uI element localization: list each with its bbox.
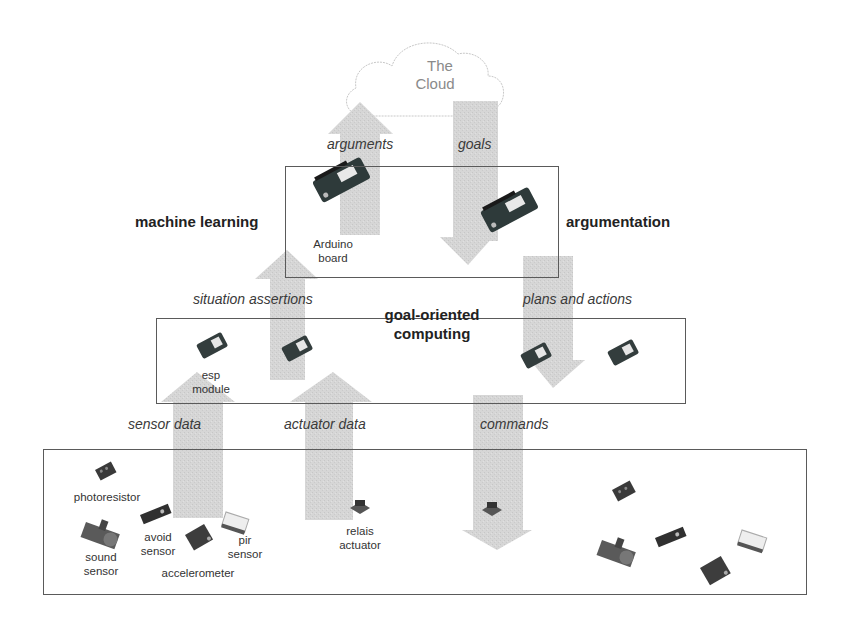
flow-label-goals: goals <box>458 136 491 152</box>
device-label-relais-line1: relais <box>330 524 390 538</box>
flow-label-situation-assertions: situation assertions <box>193 291 313 307</box>
flow-label-plans-and-actions: plans and actions <box>523 291 632 307</box>
device-label-arduino: Arduino board <box>303 237 363 265</box>
flow-label-arguments: arguments <box>327 136 393 152</box>
device-label-relais-line2: actuator <box>330 538 390 552</box>
device-label-accelerometer: accelerometer <box>158 566 238 580</box>
flow-label-commands: commands <box>480 416 548 432</box>
cloud-label: The Cloud <box>410 57 460 93</box>
device-label-avoid-line1: avoid <box>133 530 183 544</box>
layer-title-machine-learning: machine learning <box>135 212 258 231</box>
device-label-pir-line1: pir <box>220 533 270 547</box>
device-label-sound-line1: sound <box>76 550 126 564</box>
layer-title-goal-oriented-computing: goal-oriented computing <box>367 305 497 343</box>
device-label-arduino-line2: board <box>303 251 363 265</box>
device-label-sound-sensor: sound sensor <box>76 550 126 578</box>
device-label-sound-line2: sensor <box>76 564 126 578</box>
device-label-photoresistor: photoresistor <box>67 490 147 504</box>
layer-title-goal-oriented-line1: goal-oriented <box>367 305 497 324</box>
device-label-relais-actuator: relais actuator <box>330 524 390 552</box>
cloud-label-line2: Cloud <box>410 75 460 93</box>
layer-title-argumentation: argumentation <box>566 212 670 231</box>
flow-label-actuator-data: actuator data <box>284 416 366 432</box>
layer-title-goal-oriented-line2: computing <box>367 324 497 343</box>
device-label-pir-line2: sensor <box>220 547 270 561</box>
device-label-esp: esp module <box>186 368 236 396</box>
device-label-avoid-sensor: avoid sensor <box>133 530 183 558</box>
device-label-pir-sensor: pir sensor <box>220 533 270 561</box>
device-label-esp-line2: module <box>186 382 236 396</box>
device-label-arduino-line1: Arduino <box>303 237 363 251</box>
device-label-avoid-line2: sensor <box>133 544 183 558</box>
cloud-label-line1: The <box>410 57 460 75</box>
device-label-esp-line1: esp <box>186 368 236 382</box>
flow-label-sensor-data: sensor data <box>128 416 201 432</box>
